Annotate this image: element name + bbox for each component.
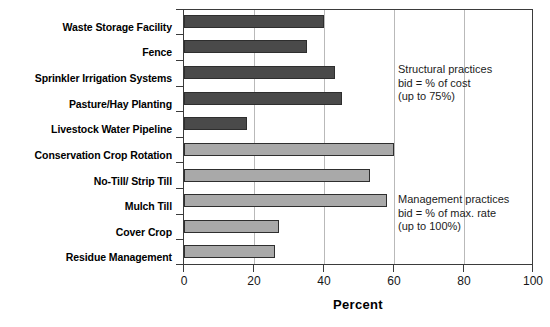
category-label: No-Till/ Strip Till (0, 176, 172, 187)
structural-note: Structural practices bid = % of cost (up… (398, 63, 492, 104)
bar-cover-crop (184, 220, 279, 233)
management-note: Management practices bid = % of max. rat… (398, 193, 509, 234)
management-note-line-1: Management practices (398, 193, 509, 207)
category-axis-labels: Waste Storage Facility Fence Sprinkler I… (0, 9, 178, 265)
bar-no-till-strip-till (184, 169, 370, 182)
x-axis-title: Percent (183, 297, 533, 312)
bar-residue-management (184, 245, 275, 258)
gridline-60 (394, 10, 395, 264)
structural-note-line-2: bid = % of cost (398, 77, 492, 91)
x-axis-tick (532, 265, 533, 272)
bar-waste-storage-facility (184, 15, 324, 28)
bar-fence (184, 40, 307, 53)
category-label: Residue Management (0, 252, 172, 263)
x-axis-tick-label: 80 (442, 274, 486, 288)
management-note-line-3: (up to 100%) (398, 220, 509, 234)
bar-conservation-crop-rotation (184, 143, 394, 156)
x-axis-tick (463, 265, 464, 272)
x-axis-tick-label: 40 (302, 274, 346, 288)
category-label: Livestock Water Pipeline (0, 124, 172, 135)
category-label: Cover Crop (0, 227, 172, 238)
x-axis-tick (323, 265, 324, 272)
bar-chart: Waste Storage Facility Fence Sprinkler I… (0, 0, 550, 327)
category-label: Mulch Till (0, 201, 172, 212)
category-label: Sprinkler Irrigation Systems (0, 73, 172, 84)
bar-pasture-hay-planting (184, 92, 342, 105)
bar-sprinkler-irrigation-systems (184, 66, 335, 79)
x-axis-tick-label: 20 (232, 274, 276, 288)
category-label: Fence (0, 47, 172, 58)
management-note-line-2: bid = % of max. rate (398, 207, 509, 221)
bar-mulch-till (184, 194, 387, 207)
x-axis-tick-label: 0 (162, 274, 206, 288)
x-axis-tick (183, 265, 184, 272)
category-label: Pasture/Hay Planting (0, 99, 172, 110)
gridline-40 (324, 10, 325, 264)
x-axis-tick (393, 265, 394, 272)
x-axis-tick (253, 265, 254, 272)
plot-area: Structural practices bid = % of cost (up… (183, 9, 533, 265)
structural-note-line-1: Structural practices (398, 63, 492, 77)
structural-note-line-3: (up to 75%) (398, 90, 492, 104)
x-axis-tick-label: 60 (372, 274, 416, 288)
category-label: Conservation Crop Rotation (0, 150, 172, 161)
category-label: Waste Storage Facility (0, 22, 172, 33)
x-axis-tick-label: 100 (511, 274, 550, 288)
bar-livestock-water-pipeline (184, 117, 247, 130)
